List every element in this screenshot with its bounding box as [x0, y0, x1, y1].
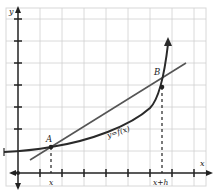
point-a: [49, 145, 54, 150]
curve-arrow-icon: [164, 37, 172, 46]
secant-diagram: y x A B x x+h y=f(x): [0, 0, 220, 195]
y-axis-arrow-up-icon: [15, 6, 21, 13]
grid: [6, 8, 206, 186]
point-b-label: B: [153, 67, 160, 77]
y-axis-label: y: [8, 7, 14, 16]
x-axis-label: x: [200, 159, 205, 168]
x-axis-arrow-left-icon: [9, 170, 16, 176]
y-axis: [14, 10, 22, 188]
curve-f: [4, 44, 168, 152]
x-plus-h-tick-label: x+h: [153, 178, 169, 187]
point-b: [160, 85, 165, 90]
origin-dot: [16, 171, 20, 175]
x-axis: [12, 169, 210, 177]
x-axis-arrow-right-icon: [206, 170, 213, 176]
point-a-label: A: [45, 134, 52, 144]
curve-label: y=f(x): [105, 124, 131, 140]
